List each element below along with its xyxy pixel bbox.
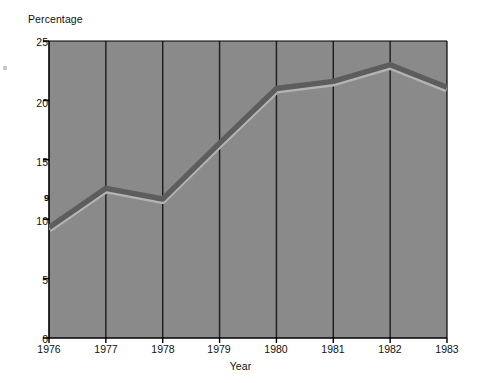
line-chart: Percentage Year 0 5 10 15 20 25 1976 197… bbox=[0, 0, 481, 383]
plot-area bbox=[0, 0, 481, 383]
y-axis-ticks bbox=[43, 41, 49, 338]
